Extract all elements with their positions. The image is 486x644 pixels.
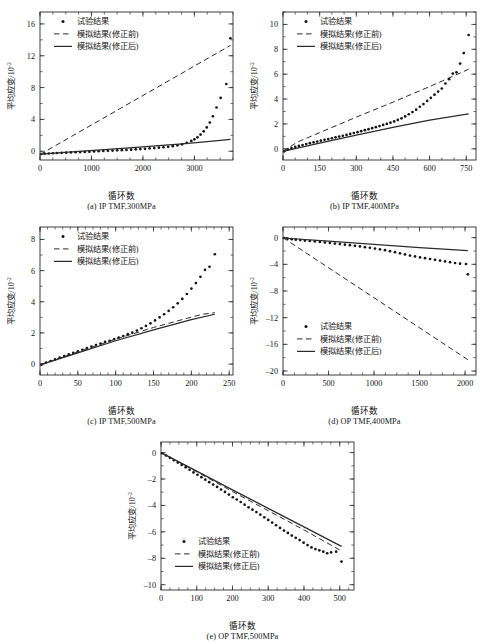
data-point	[130, 148, 133, 151]
data-point	[378, 125, 381, 128]
data-point	[326, 552, 329, 555]
data-point	[465, 263, 468, 266]
data-point	[359, 245, 362, 248]
data-point	[354, 244, 357, 247]
subplot-caption: (d) OP TMF,400MPa	[243, 417, 486, 426]
data-point	[176, 302, 179, 305]
y-tick-label: 0	[31, 147, 35, 156]
data-point	[404, 115, 407, 118]
data-point	[305, 143, 308, 146]
data-point	[158, 316, 161, 319]
data-point	[415, 108, 418, 111]
y-axis-label: 平均应变/10-2	[127, 492, 137, 540]
legend-marker-dot	[62, 20, 65, 23]
data-point	[454, 262, 457, 265]
data-point	[322, 550, 325, 553]
x-tick-label: 0	[281, 379, 285, 388]
data-point	[145, 325, 148, 328]
data-point	[235, 498, 238, 501]
data-point	[449, 261, 452, 264]
subplot-d: 05001000150020000–4–8–12–16–20平均应变/10-2试…	[243, 215, 486, 426]
legend-marker-dot	[305, 325, 308, 328]
y-axis-label: 平均应变/10-2	[249, 277, 259, 325]
x-tick-label: 100	[191, 594, 203, 603]
data-point	[199, 133, 202, 136]
x-tick-label: 400	[298, 594, 310, 603]
data-point	[267, 519, 270, 522]
data-point	[231, 496, 234, 499]
y-tick-label: –20	[265, 367, 278, 376]
data-point	[204, 478, 207, 481]
data-point	[466, 273, 469, 276]
data-point	[444, 82, 447, 85]
data-point	[339, 243, 342, 246]
data-point	[162, 146, 165, 149]
x-tick-label: 1000	[366, 379, 382, 388]
data-point	[340, 560, 343, 563]
plot-a: 01000200030000481216平均应变/10-2试验结果模拟结果(修正…	[0, 0, 243, 190]
y-tick-label: 0	[274, 234, 278, 243]
legend-label: 试验结果	[77, 16, 109, 26]
y-tick-label: –12	[265, 314, 278, 323]
data-point	[374, 126, 377, 129]
data-point	[188, 468, 191, 471]
subplot-caption: (b) IP TMF,400MPa	[243, 202, 486, 211]
y-tick-label: –16	[265, 340, 278, 349]
y-tick-label: 0	[152, 449, 156, 458]
plot-e: 01002003004005000–2–4–6–8–10平均应变/10-2试验结…	[121, 430, 364, 620]
data-point	[294, 536, 297, 539]
x-axis-label: 循环数	[121, 619, 364, 631]
data-point	[396, 119, 399, 122]
x-tick-label: 150	[147, 379, 159, 388]
data-point	[301, 144, 304, 147]
x-tick-label: 150	[314, 164, 326, 173]
data-point	[131, 331, 134, 334]
x-tick-label: 100	[110, 379, 122, 388]
x-axis-label: 循环数	[243, 404, 486, 416]
svg-text:平均应变/10-2: 平均应变/10-2	[6, 62, 16, 110]
x-tick-label: 0	[38, 164, 42, 173]
data-point	[345, 134, 348, 137]
x-tick-label: 3000	[186, 164, 202, 173]
legend-label: 模拟结果(修正前)	[320, 29, 382, 39]
data-point	[426, 100, 429, 103]
x-axis-label: 循环数	[0, 189, 243, 201]
data-point	[422, 103, 425, 106]
x-tick-label: 750	[460, 164, 472, 173]
data-point	[342, 134, 345, 137]
data-point	[327, 138, 330, 141]
data-point	[312, 141, 315, 144]
legend-label: 模拟结果(修正后)	[320, 346, 382, 356]
y-axis-label: 平均应变/10-2	[6, 277, 16, 325]
data-point	[125, 149, 128, 152]
data-point	[407, 113, 410, 116]
data-point	[309, 142, 312, 145]
data-point	[434, 258, 437, 261]
subplot-caption: (c) IP TMF,500MPa	[0, 417, 243, 426]
x-tick-label: 300	[262, 594, 274, 603]
data-point	[318, 549, 321, 552]
data-point	[154, 319, 157, 322]
x-tick-label: 0	[281, 164, 285, 173]
data-point	[459, 262, 462, 265]
data-point	[369, 246, 372, 249]
legend-label: 模拟结果(修正前)	[77, 244, 139, 254]
data-point	[167, 145, 170, 148]
y-tick-label: 4	[31, 298, 35, 307]
data-point	[323, 139, 326, 142]
data-point	[148, 147, 151, 150]
data-point	[334, 136, 337, 139]
data-point	[275, 524, 278, 527]
data-point	[360, 130, 363, 133]
data-point	[400, 117, 403, 120]
data-point	[144, 147, 147, 150]
data-point	[172, 306, 175, 309]
legend-label: 试验结果	[198, 536, 230, 546]
data-point	[335, 550, 338, 553]
y-tick-label: 4	[31, 115, 35, 124]
data-point	[349, 133, 352, 136]
data-point	[287, 532, 290, 535]
data-point	[208, 265, 211, 268]
svg-text:平均应变/10-2: 平均应变/10-2	[127, 492, 137, 540]
data-point	[439, 259, 442, 262]
